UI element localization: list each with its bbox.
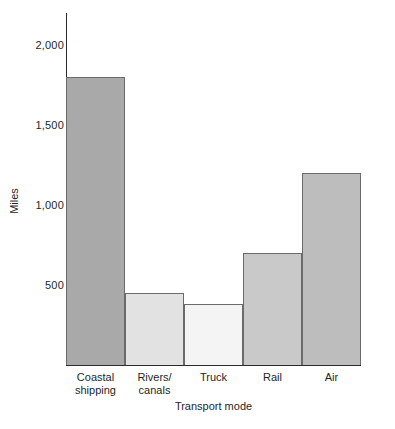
bar [243,253,302,365]
y-tick-label: 1,500 [4,119,64,131]
x-tick-label-line: canals [125,384,184,397]
x-tick-label-line: Rail [243,371,302,384]
x-tick-label: Truck [184,371,243,384]
x-tick-label-line: shipping [66,384,125,397]
x-tick-label-line: Coastal [66,371,125,384]
x-tick-label-line: Truck [184,371,243,384]
x-axis-title: Transport mode [66,400,361,412]
y-tick-label: 2,000 [4,39,64,51]
x-tick-label: Rivers/canals [125,371,184,397]
bar [302,173,361,365]
bar [66,77,125,365]
x-tick-label: Rail [243,371,302,384]
x-axis-line [66,365,361,366]
y-tick-label: 500 [4,279,64,291]
bar-chart: Miles 5001,0001,5002,000 Coastalshipping… [0,0,395,429]
bar [184,304,243,365]
x-tick-label-line: Rivers/ [125,371,184,384]
y-tick-label: 1,000 [4,199,64,211]
bar [125,293,184,365]
plot-area [66,13,361,365]
x-tick-label: Coastalshipping [66,371,125,397]
x-tick-label: Air [302,371,361,384]
x-tick-label-line: Air [302,371,361,384]
